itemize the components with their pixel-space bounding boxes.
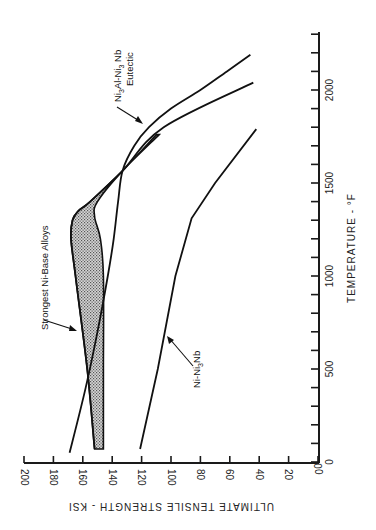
tensile-strength-chart: 020406080100120140160180200 050010001500… <box>0 0 376 530</box>
eutectic-label-al: Al-Ni <box>112 69 123 90</box>
temperature-tick-label: 500 <box>324 360 335 377</box>
ni-ni3nb-label-nb: Nb <box>191 351 202 363</box>
temperature-ticks: 05001000150020000 <box>311 34 335 469</box>
ni-ni3nb-leader-arrow <box>169 338 193 366</box>
temperature-axis-title: TEMPERATURE - °F <box>346 193 357 303</box>
temperature-axis-title-text: TEMPERATURE - °F <box>346 193 357 303</box>
eutectic-label-line2: Eutectic <box>124 52 135 86</box>
strength-tick-label: 120 <box>136 469 147 486</box>
strongest-ni-base-label: Strongest Ni-Base Alloys <box>39 225 50 330</box>
strength-tick-label: 0 <box>313 469 324 475</box>
ni-ni3nb-label-text: Ni-Ni <box>191 367 202 388</box>
strongest-arrowhead-icon <box>69 325 77 331</box>
temperature-tick-label: 0 <box>324 459 335 465</box>
temperature-tick-label: 2000 <box>324 78 335 101</box>
strength-tick-label: 40 <box>254 469 265 481</box>
annotations: Strongest Ni-Base Alloys Ni3Al-Ni3 Nb Eu… <box>39 50 204 388</box>
strength-tick-label: 20 <box>283 469 294 481</box>
eutectic-label-nb: Nb <box>112 50 123 65</box>
strength-tick-label: 60 <box>224 469 235 481</box>
strength-tick-label: 180 <box>48 469 59 486</box>
strength-tick-label: 140 <box>107 469 118 486</box>
temperature-tick-label: 1500 <box>324 171 335 194</box>
eutectic-arrowhead-icon <box>135 116 143 124</box>
temperature-tick-label: 1000 <box>324 264 335 287</box>
ni-ni3nb-curve <box>140 129 256 449</box>
strength-tick-label: 200 <box>19 469 30 486</box>
strength-ticks: 020406080100120140160180200 <box>19 456 324 486</box>
axes: 020406080100120140160180200 050010001500… <box>19 32 358 512</box>
ni-ni3nb-label: Ni-Ni3Nb <box>191 351 204 388</box>
strength-axis-title: ULTIMATE TENSILE STRENGTH - KSI <box>68 501 274 512</box>
strongest-ni-base-band <box>71 135 159 449</box>
strength-tick-label: 160 <box>77 469 88 486</box>
strength-tick-label: 100 <box>166 469 177 486</box>
origin-zero-label: 0 <box>313 463 324 469</box>
plot-area <box>70 55 257 453</box>
strength-tick-label: 80 <box>195 469 206 481</box>
eutectic-label-ni: Ni <box>112 93 123 102</box>
